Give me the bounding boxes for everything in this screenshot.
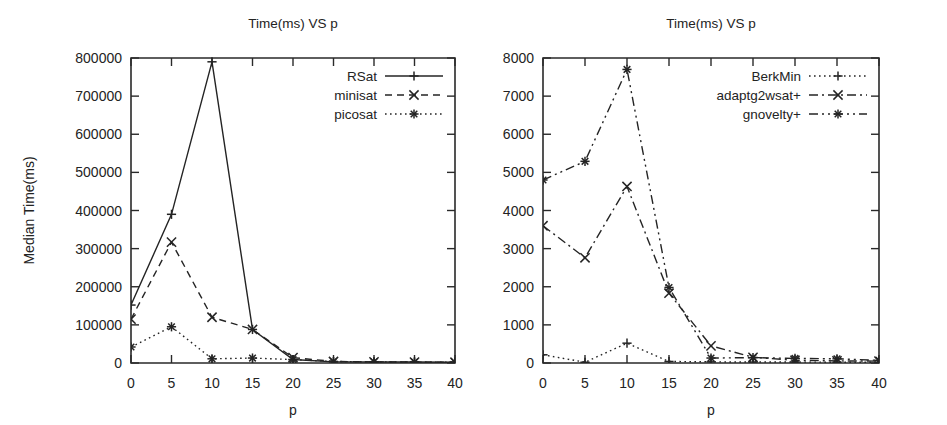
y-tick-label: 100000 (75, 317, 122, 333)
x-tick-label: 10 (204, 375, 220, 391)
series-group (126, 57, 459, 367)
series-line-adaptg2wsat- (543, 186, 879, 361)
y-tick-label: 1000 (503, 317, 534, 333)
legend-sample-marker-picosat (409, 109, 418, 118)
y-tick-label: 5000 (503, 164, 534, 180)
x-tick-label: 25 (326, 375, 342, 391)
x-tick-label: 40 (871, 375, 887, 391)
legend-label-rsat: RSat (347, 69, 377, 84)
x-axis-title: p (289, 402, 297, 418)
y-tick-label: 0 (114, 355, 122, 371)
legend-sample-marker-gnovelty- (833, 109, 842, 118)
chart-panel-right: Time(ms) VS p010002000300040005000600070… (473, 0, 946, 425)
series-line-rsat (131, 62, 455, 362)
x-tick-label: 5 (581, 375, 589, 391)
series-group (538, 65, 883, 367)
legend-label-minisat: minisat (334, 88, 377, 103)
y-tick-label: 2000 (503, 279, 534, 295)
figure-container: Time(ms) VS p010000020000030000040000050… (0, 0, 947, 425)
legend-sample-marker-rsat (409, 71, 418, 80)
chart-title: Time(ms) VS p (248, 16, 338, 31)
y-tick-label: 300000 (75, 241, 122, 257)
series-markers-rsat (126, 57, 459, 367)
x-tick-label: 30 (366, 375, 382, 391)
y-tick-label: 6000 (503, 126, 534, 142)
x-axis-title: p (707, 402, 715, 418)
y-axis-title: Median Time(ms) (21, 156, 37, 264)
legend-label-gnovelty-: gnovelty+ (743, 107, 801, 122)
x-tick-label: 5 (168, 375, 176, 391)
x-tick-label: 15 (245, 375, 261, 391)
x-tick-label: 40 (447, 375, 463, 391)
legend-label-adaptg2wsat-: adaptg2wsat+ (717, 88, 802, 103)
plot-frame (543, 58, 879, 363)
x-tick-label: 30 (787, 375, 803, 391)
series-line-minisat (131, 242, 455, 362)
series-markers-adaptg2wsat- (538, 182, 883, 366)
left-chart-svg: Time(ms) VS p010000020000030000040000050… (0, 0, 473, 425)
x-tick-label: 35 (829, 375, 845, 391)
y-tick-label: 4000 (503, 203, 534, 219)
legend-label-berkmin: BerkMin (751, 69, 801, 84)
y-tick-label: 700000 (75, 88, 122, 104)
x-tick-label: 20 (285, 375, 301, 391)
chart-title: Time(ms) VS p (666, 16, 756, 31)
x-tick-label: 0 (539, 375, 547, 391)
y-tick-label: 8000 (503, 50, 534, 66)
y-tick-label: 3000 (503, 241, 534, 257)
y-tick-label: 500000 (75, 164, 122, 180)
legend-label-picosat: picosat (334, 107, 377, 122)
legend-sample-marker-berkmin (833, 71, 842, 80)
y-tick-label: 7000 (503, 88, 534, 104)
series-markers-picosat (126, 322, 459, 367)
y-tick-label: 200000 (75, 279, 122, 295)
x-tick-label: 20 (703, 375, 719, 391)
plot-frame (131, 58, 455, 363)
series-markers-minisat (126, 238, 459, 367)
x-tick-label: 25 (745, 375, 761, 391)
y-tick-label: 600000 (75, 126, 122, 142)
x-tick-label: 10 (619, 375, 635, 391)
x-tick-label: 15 (661, 375, 677, 391)
chart-panel-left: Time(ms) VS p010000020000030000040000050… (0, 0, 473, 425)
series-line-gnovelty- (543, 69, 879, 360)
x-tick-label: 35 (407, 375, 423, 391)
y-tick-label: 0 (526, 355, 534, 371)
series-markers-gnovelty- (538, 65, 883, 365)
x-tick-label: 0 (127, 375, 135, 391)
y-tick-label: 400000 (75, 203, 122, 219)
right-chart-svg: Time(ms) VS p010002000300040005000600070… (473, 0, 946, 425)
y-tick-label: 800000 (75, 50, 122, 66)
